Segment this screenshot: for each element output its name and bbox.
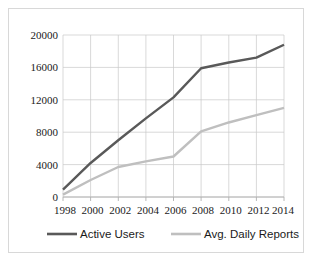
- y-tick-label-4000: 4000: [36, 159, 59, 171]
- x-tick-label-2008: 2008: [192, 204, 215, 216]
- y-tick-label-8000: 8000: [36, 126, 59, 138]
- x-tick-label-2010: 2010: [220, 204, 243, 216]
- y-tick-label-16000: 16000: [31, 61, 59, 73]
- line-chart: 20000 16000 12000 8000 4000 0 1998 2000 …: [9, 9, 305, 254]
- chart-card: 20000 16000 12000 8000 4000 0 1998 2000 …: [8, 8, 304, 253]
- x-axis: [63, 197, 284, 201]
- y-tick-label-12000: 12000: [31, 94, 59, 106]
- x-tick-label-2014: 2014: [272, 204, 295, 216]
- x-axis-tick-labels: 1998 2000 2002 2004 2006 2008 2010 2012 …: [54, 204, 295, 216]
- legend-label-active-users: Active Users: [80, 228, 145, 240]
- x-tick-label-2006: 2006: [165, 204, 188, 216]
- x-tick-label-2002: 2002: [109, 204, 131, 216]
- x-tick-label-2012: 2012: [247, 204, 269, 216]
- legend-label-avg-daily-reports: Avg. Daily Reports: [204, 228, 299, 240]
- chart-legend: Active Users Avg. Daily Reports: [47, 228, 299, 240]
- x-tick-label-2000: 2000: [82, 204, 105, 216]
- y-axis-tick-labels: 20000 16000 12000 8000 4000 0: [31, 29, 59, 203]
- x-tick-label-2004: 2004: [137, 204, 160, 216]
- x-tick-label-1998: 1998: [54, 204, 77, 216]
- y-tick-label-20000: 20000: [31, 29, 59, 41]
- y-tick-label-0: 0: [53, 191, 59, 203]
